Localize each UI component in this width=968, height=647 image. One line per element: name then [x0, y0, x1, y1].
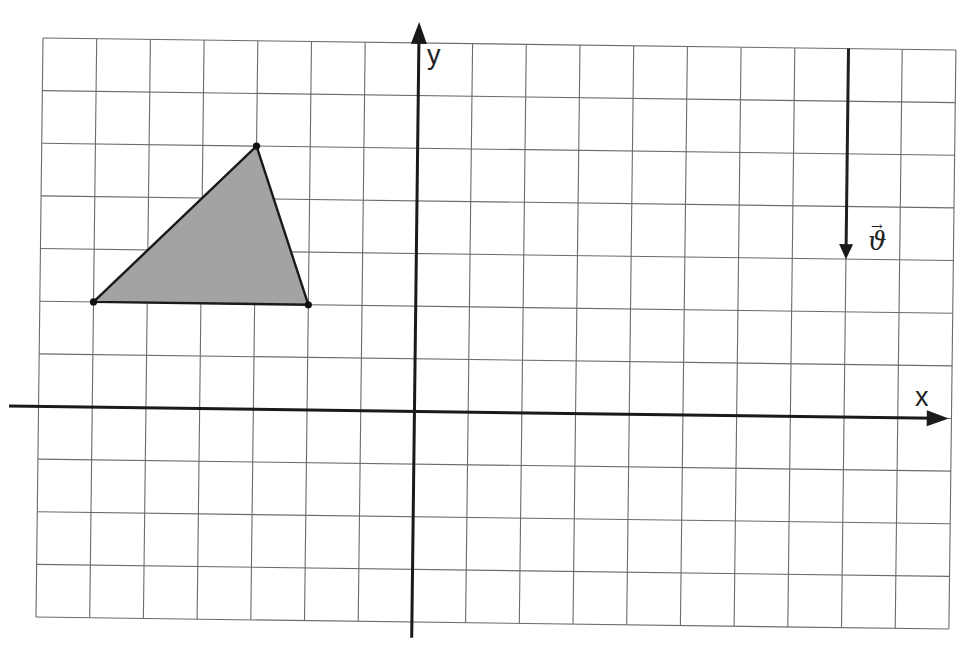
triangle-vertex [305, 301, 312, 308]
grid-line-horizontal [36, 617, 949, 629]
grid-line-vertical [143, 39, 150, 618]
translation-vector [846, 49, 848, 246]
grid-line-horizontal [42, 143, 955, 155]
grid-line-horizontal [42, 91, 955, 103]
grid-line-vertical [466, 44, 473, 623]
grid-line-vertical [788, 48, 795, 627]
grid-line-horizontal [38, 459, 951, 471]
grid-line-vertical [680, 46, 687, 625]
grid-line-vertical [251, 41, 258, 620]
grid-line-vertical [627, 46, 634, 625]
grid-line-horizontal [41, 196, 954, 208]
grid-plane [6, 30, 956, 645]
shaded-triangle [94, 144, 311, 305]
grid-line-vertical [895, 49, 902, 628]
x-axis [9, 406, 935, 418]
x-axis-arrow-icon [927, 410, 949, 426]
grid-lines [36, 38, 956, 629]
grid-line-horizontal [37, 564, 950, 576]
grid-line-vertical [573, 45, 580, 624]
y-axis-label: y [427, 42, 441, 69]
grid-line-vertical [358, 42, 365, 621]
y-axis [412, 35, 419, 638]
triangle-vertex [90, 298, 97, 305]
y-axis-arrow-icon [411, 22, 427, 44]
vector-arrowhead-icon [839, 244, 853, 259]
vector-label: → ϑ [868, 228, 887, 254]
grid-line-vertical [949, 50, 956, 629]
coordinate-plane [0, 0, 968, 647]
grid-line-vertical [519, 44, 526, 623]
grid-line-vertical [305, 42, 312, 621]
grid-line-horizontal [39, 354, 952, 366]
triangle-vertex [253, 143, 260, 150]
grid-line-vertical [197, 40, 204, 619]
vector-arrow-icon: → [871, 219, 883, 233]
grid-line-vertical [734, 47, 741, 626]
grid-line-horizontal [37, 512, 950, 524]
x-axis-label: x [915, 384, 929, 411]
grid-line-horizontal [43, 38, 956, 50]
grid-line-vertical [90, 39, 97, 618]
grid-line-vertical [36, 38, 43, 617]
